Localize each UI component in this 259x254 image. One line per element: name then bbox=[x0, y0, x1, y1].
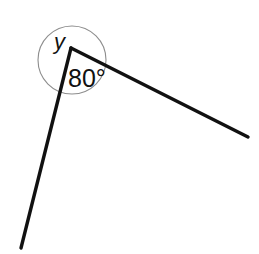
diagram-canvas: y 80° bbox=[0, 0, 259, 254]
left-ray bbox=[21, 48, 71, 248]
right-ray bbox=[71, 48, 248, 137]
interior-angle-label: 80° bbox=[68, 64, 106, 92]
reflex-angle-label: y bbox=[52, 29, 67, 54]
geometry-diagram: y 80° bbox=[0, 0, 259, 254]
